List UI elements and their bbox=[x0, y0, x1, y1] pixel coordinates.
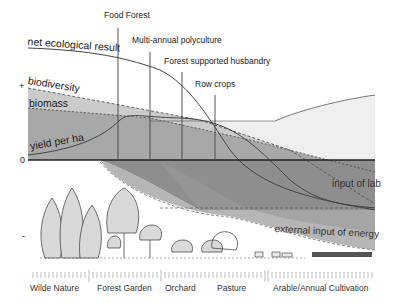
crop-rows bbox=[312, 252, 372, 257]
livestock-illustration bbox=[255, 252, 292, 257]
label-row-crops: Row crops bbox=[195, 79, 235, 89]
label-input-of-labour: input of lab bbox=[332, 178, 381, 189]
label-biomass: biomass bbox=[29, 97, 68, 109]
scale-wilde-nature: Wilde Nature bbox=[30, 283, 79, 293]
scale-ticks bbox=[33, 270, 372, 282]
scale-pasture: Pasture bbox=[217, 283, 246, 293]
label-food-forest: Food Forest bbox=[104, 10, 150, 20]
scale-forest-garden: Forest Garden bbox=[97, 283, 152, 293]
axis-plus: + bbox=[19, 81, 24, 91]
scale-arable-annual-cultivation: Arable/Annual Cultivation bbox=[273, 283, 368, 293]
axis-minus: - bbox=[22, 231, 25, 241]
axis-zero: 0 bbox=[20, 155, 25, 165]
label-multi-annual-polyculture: Multi-annual polyculture bbox=[132, 35, 222, 45]
scale-orchard: Orchard bbox=[165, 283, 196, 293]
label-forest-supported-husbandry: Forest supported husbandry bbox=[164, 56, 270, 66]
